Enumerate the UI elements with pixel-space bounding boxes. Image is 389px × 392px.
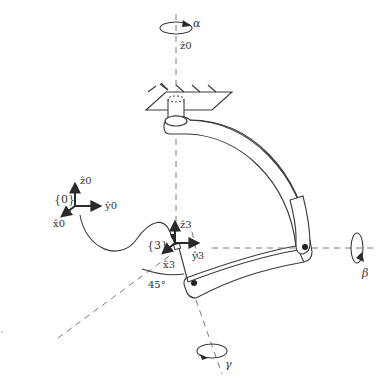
x0-axis-arrow — [62, 206, 75, 216]
ground-plate — [146, 83, 232, 110]
y3-label: ŷ3 — [191, 250, 204, 261]
frame-0-label: {0} — [54, 193, 75, 206]
z0-top-label: ẑ0 — [180, 40, 192, 51]
frame-3-label: {3} — [147, 239, 168, 252]
wrist-rod — [179, 248, 188, 282]
x3-label: x̂3 — [163, 259, 175, 270]
z0-label: ẑ0 — [80, 175, 92, 186]
gamma-label: γ — [225, 358, 232, 371]
curved-link-2 — [184, 240, 312, 298]
spherical-wrist-diagram: α ẑ0 β — [0, 0, 389, 392]
beta-label: β — [361, 267, 368, 280]
alpha-label: α — [193, 17, 201, 30]
angle-label: 45° — [148, 279, 166, 290]
y0-label: ŷ0 — [104, 200, 117, 211]
beta-joint-dot — [302, 244, 308, 250]
z3-label: ẑ3 — [180, 219, 192, 230]
x0-label: x̂0 — [53, 218, 65, 229]
x3-extension-axis — [58, 254, 172, 338]
stray-dot — [1, 331, 3, 333]
gamma-joint-dot — [191, 280, 197, 286]
